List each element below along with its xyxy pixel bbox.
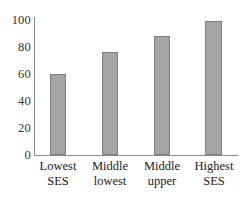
bar-middle-upper [154,36,170,155]
x-label-highest-ses-line2: SES [183,174,243,189]
y-tick-label-40: 40 [3,95,31,107]
y-axis-tick-labels: 100 80 60 40 20 0 [0,0,31,198]
y-tick-label-80: 80 [3,41,31,53]
y-tick-label-60: 60 [3,68,31,80]
y-axis-line [34,17,35,156]
bar-chart: 100 80 60 40 20 0 Lowest SES Middle lowe… [0,0,243,198]
x-axis-line [34,155,238,156]
y-tick-label-20: 20 [3,122,31,134]
x-label-highest-ses-line1: Highest [183,159,243,174]
y-tick-label-100: 100 [3,14,31,26]
bar-middle-lowest [102,52,118,155]
y-tick-label-0: 0 [3,149,31,161]
x-label-highest-ses: Highest SES [183,159,243,188]
bar-lowest-ses [50,74,66,155]
bar-highest-ses [205,21,222,155]
